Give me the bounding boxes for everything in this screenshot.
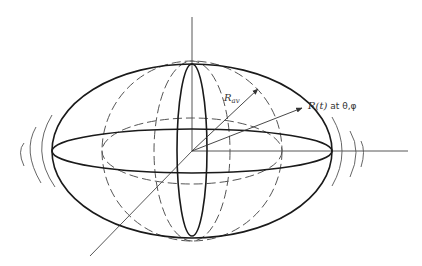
r-av-label: Rav	[223, 92, 240, 105]
wave-arc	[350, 131, 356, 177]
vibration-arcs-left	[21, 115, 56, 187]
wave-arc	[332, 117, 342, 186]
wave-arc	[21, 143, 25, 166]
ellipsoid-diagram: Rav R(t) at θ,φ	[0, 0, 422, 266]
radius-vectors	[192, 89, 302, 151]
wave-arc	[361, 141, 364, 167]
r-t-label: R(t) at θ,φ	[307, 100, 356, 111]
wave-arc	[42, 115, 55, 187]
vibration-arcs-right	[332, 117, 364, 186]
wave-arc	[30, 127, 41, 183]
